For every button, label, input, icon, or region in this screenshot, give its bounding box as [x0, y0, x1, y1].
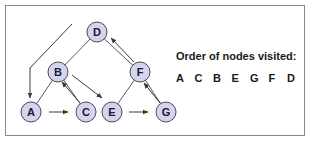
node-label-e: E — [108, 106, 115, 118]
visit-order-item: D — [287, 72, 306, 84]
node-e: E — [102, 102, 122, 122]
node-label-a: A — [27, 106, 35, 118]
node-g: G — [156, 102, 176, 122]
visit-order-item: G — [250, 72, 269, 84]
node-b: B — [48, 62, 68, 82]
tree-nodes: D B F A C E G — [21, 22, 176, 122]
node-label-c: C — [82, 106, 90, 118]
node-d: D — [87, 22, 107, 42]
visit-order-item: A — [176, 72, 195, 84]
node-c: C — [76, 102, 96, 122]
visit-order-item: B — [213, 72, 232, 84]
visit-order-item: E — [232, 72, 251, 84]
visit-order-panel: Order of nodes visited: A C B E G F D — [176, 50, 306, 84]
node-label-g: G — [162, 106, 171, 118]
arrow-b-to-e — [72, 75, 102, 98]
arrow-f-to-d — [111, 38, 134, 62]
visit-order-item: C — [195, 72, 214, 84]
node-label-b: B — [54, 66, 62, 78]
arrow-g-to-f — [144, 83, 160, 103]
node-label-d: D — [93, 26, 101, 38]
arrow-c-to-b — [62, 82, 80, 103]
node-a: A — [21, 102, 41, 122]
visit-order-title: Order of nodes visited: — [176, 50, 306, 62]
visit-order-item: F — [269, 72, 288, 84]
visit-order-list: A C B E G F D — [176, 72, 306, 84]
node-f: F — [130, 62, 150, 82]
node-label-f: F — [137, 66, 144, 78]
